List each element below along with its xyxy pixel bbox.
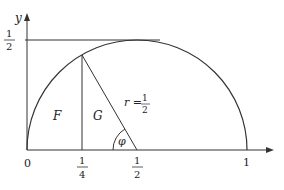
y-tick-half-num: 1: [6, 28, 12, 39]
radius-label-lhs: r =: [124, 96, 142, 109]
x-tick-quarter-num: 1: [79, 155, 85, 166]
region-f-label: F: [52, 109, 62, 123]
x-axis-arrow-icon: [266, 147, 274, 153]
x-tick-1: 1: [243, 156, 250, 169]
x-tick-0: 0: [24, 157, 31, 170]
y-tick-half-den: 2: [6, 41, 12, 52]
x-tick-quarter-den: 4: [79, 169, 85, 180]
y-axis-arrow-icon: [24, 13, 30, 21]
diagram-canvas: y 1 2 0 1 4 1 2 1 F G r = 1 2 φ: [0, 0, 284, 190]
x-tick-half-den: 2: [134, 169, 140, 180]
radius-label-num: 1: [142, 93, 148, 103]
angle-phi-label: φ: [118, 135, 126, 148]
semicircle-arc: [27, 40, 247, 150]
y-axis-label: y: [14, 11, 22, 25]
x-tick-half-num: 1: [134, 155, 140, 166]
radius-label-den: 2: [142, 105, 148, 115]
region-g-label: G: [93, 109, 103, 123]
